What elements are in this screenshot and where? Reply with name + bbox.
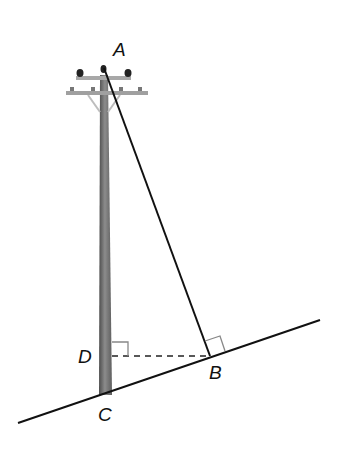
lower-crossarm: [66, 91, 148, 95]
label-D: D: [78, 347, 92, 366]
pole: [99, 75, 112, 395]
ground-line: [18, 320, 320, 423]
label-A: A: [113, 40, 126, 59]
label-B: B: [209, 363, 222, 382]
guy-wire-AB: [104, 68, 210, 356]
utility-pole-diagram: [0, 0, 338, 456]
right-angle-mark-D: [112, 342, 128, 356]
upper-crossarm: [76, 76, 131, 80]
label-C: C: [98, 405, 112, 424]
